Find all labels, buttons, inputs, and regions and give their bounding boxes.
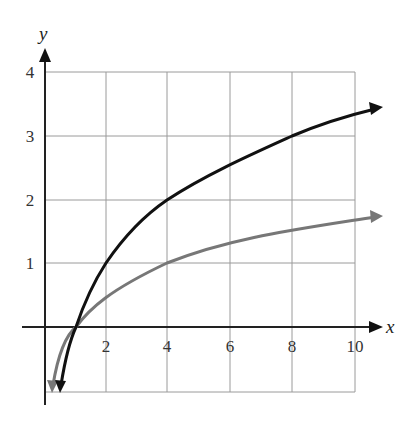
svg-text:8: 8	[288, 337, 297, 356]
svg-text:4: 4	[163, 337, 172, 356]
black-curve-end-arrow-icon	[369, 102, 383, 115]
grid	[45, 72, 355, 392]
svg-text:2: 2	[102, 337, 111, 356]
x-axis-arrow-icon	[369, 321, 383, 333]
svg-text:10: 10	[347, 337, 364, 356]
svg-text:1: 1	[26, 254, 35, 273]
axes	[22, 60, 372, 405]
x-tick-labels: 2 4 6 8 10	[102, 337, 364, 356]
svg-text:3: 3	[26, 127, 35, 146]
gray-curve-end-arrow-icon	[370, 210, 383, 223]
y-tick-labels: 1 2 3 4	[26, 63, 35, 273]
y-axis-label: y	[37, 23, 48, 44]
svg-text:6: 6	[226, 337, 235, 356]
svg-text:2: 2	[26, 191, 35, 210]
black-curve-start-arrow-icon	[55, 380, 66, 393]
graph-canvas: x y 2 4 6 8 10 1 2 3 4	[0, 0, 413, 423]
x-axis-label: x	[385, 316, 395, 337]
gray-log-curve	[53, 217, 375, 385]
svg-text:4: 4	[26, 63, 35, 82]
y-axis-arrow-icon	[39, 48, 51, 62]
